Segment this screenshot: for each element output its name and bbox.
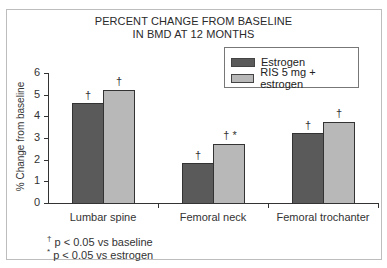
category-label-femoral-trochanter: Femoral trochanter <box>268 211 378 223</box>
y-tick-label: 0 <box>28 196 40 208</box>
legend-item-ris-estrogen: RIS 5 mg + estrogen <box>231 72 358 84</box>
y-tick <box>44 160 49 161</box>
footnote-baseline: † p < 0.05 vs baseline <box>47 234 153 248</box>
y-tick-label: 1 <box>28 174 40 186</box>
y-axis-label: % Change from baseline <box>15 77 26 197</box>
y-tick <box>44 73 49 74</box>
significance-marker: † <box>183 149 213 161</box>
y-tick-label: 2 <box>28 153 40 165</box>
bar-estrogen-femoral-trochanter <box>292 133 324 204</box>
bar-estrogen-femoral-neck <box>182 163 214 204</box>
category-label-lumbar-spine: Lumbar spine <box>48 211 158 223</box>
footnote-estrogen: * p < 0.05 vs estrogen <box>47 247 153 261</box>
y-tick-label: 6 <box>28 66 40 78</box>
x-tick <box>158 203 159 208</box>
footnote-symbol: † <box>47 234 51 243</box>
bar-ris-estrogen-femoral-neck <box>213 144 245 204</box>
chart-title-line-1: PERCENT CHANGE FROM BASELINE <box>0 15 387 27</box>
significance-marker: † <box>73 89 103 101</box>
y-tick-label: 4 <box>28 109 40 121</box>
bar-ris-estrogen-femoral-trochanter <box>323 122 355 204</box>
legend-swatch-ris-estrogen <box>231 74 254 83</box>
y-tick-label: 5 <box>28 88 40 100</box>
y-tick <box>44 116 49 117</box>
legend: Estrogen RIS 5 mg + estrogen <box>224 47 359 88</box>
y-tick-label: 3 <box>28 131 40 143</box>
legend-label: RIS 5 mg + estrogen <box>260 66 358 90</box>
significance-marker: † * <box>215 129 245 141</box>
footnote-text: p < 0.05 vs baseline <box>55 236 153 248</box>
significance-marker: † <box>324 107 354 119</box>
y-tick <box>44 95 49 96</box>
x-tick <box>268 203 269 208</box>
y-tick <box>44 181 49 182</box>
chart-title-line-2: IN BMD AT 12 MONTHS <box>0 28 387 40</box>
legend-swatch-estrogen <box>231 58 255 67</box>
significance-marker: † <box>293 119 323 131</box>
significance-marker: † <box>104 75 134 87</box>
footnote-text: p < 0.05 vs estrogen <box>53 249 153 261</box>
footnote-symbol: * <box>47 247 50 256</box>
y-tick <box>44 138 49 139</box>
y-tick <box>44 203 49 204</box>
x-tick <box>378 203 379 208</box>
bar-ris-estrogen-lumbar-spine <box>103 90 135 204</box>
bar-estrogen-lumbar-spine <box>72 103 104 204</box>
category-label-femoral-neck: Femoral neck <box>158 211 268 223</box>
